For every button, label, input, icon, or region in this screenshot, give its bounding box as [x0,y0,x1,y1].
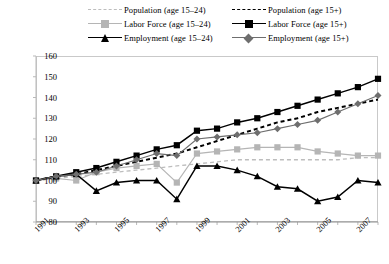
legend-label-1: Population (age 15+) [268,5,342,15]
marker-diamond [354,100,361,107]
legend-item-1: Population (age 15+) [232,3,342,16]
marker-diamond [294,121,301,128]
marker-square [194,150,200,156]
marker-square [234,119,240,125]
marker-diamond [274,125,281,132]
marker-diamond [214,133,221,140]
marker-square [274,144,280,150]
marker-square [234,146,240,152]
marker-square [315,96,321,102]
chart-svg [0,46,389,264]
legend-marker-5 [244,33,254,43]
legend-marker-2 [101,20,109,28]
legend-label-4: Employment (age 15–24) [124,33,213,43]
legend-item-0: Population (age 15–24) [88,3,206,16]
y-tick-label: 160 [31,52,57,61]
legend-item-2: Labor Force (age 15–24) [88,17,211,30]
legend-label-2: Labor Force (age 15–24) [124,19,211,29]
y-tick-label: 140 [31,94,57,103]
series-line-1 [36,100,378,181]
marker-square [294,144,300,150]
marker-square [375,76,381,82]
legend-marker-3 [245,20,253,28]
y-tick-label: 150 [31,73,57,82]
marker-square [174,179,180,185]
marker-square [194,128,200,134]
chart-legend: Population (age 15–24)Population (age 15… [0,0,389,46]
series-line-2 [36,147,378,182]
marker-square [375,153,381,159]
plot-area: 8090100110120130140150160 19911993199519… [0,46,389,264]
y-tick-label: 120 [31,135,57,144]
marker-square [174,142,180,148]
marker-square [133,163,139,169]
y-tick-label: 110 [31,156,57,165]
marker-square [214,126,220,132]
marker-square [254,144,260,150]
legend-item-5: Employment (age 15+) [232,31,349,44]
y-tick-label: 90 [31,197,57,206]
marker-square [154,161,160,167]
series-line-0 [36,158,378,181]
legend-swatch-1 [232,4,266,15]
legend-swatch-3 [232,18,266,29]
legend-swatch-0 [88,4,122,15]
marker-square [335,150,341,156]
y-tick-label: 100 [31,177,57,186]
y-tick-label: 130 [31,114,57,123]
marker-square [214,148,220,154]
marker-diamond [234,131,241,138]
marker-square [274,109,280,115]
marker-diamond [334,109,341,116]
legend-item-4: Employment (age 15–24) [88,31,213,44]
legend-label-5: Employment (age 15+) [268,33,349,43]
marker-square [335,90,341,96]
legend-swatch-5 [232,32,266,43]
legend-label-0: Population (age 15–24) [124,5,206,15]
marker-square [315,148,321,154]
marker-square [294,103,300,109]
marker-square [355,84,361,90]
legend-swatch-4 [88,32,122,43]
chart-root: Population (age 15–24)Population (age 15… [0,0,389,264]
marker-square [73,177,79,183]
marker-diamond [375,92,382,99]
marker-diamond [314,117,321,124]
legend-item-3: Labor Force (age 15+) [232,17,347,30]
series-line-5 [36,95,378,180]
legend-marker-4 [101,34,109,42]
legend-swatch-2 [88,18,122,29]
legend-label-3: Labor Force (age 15+) [268,19,347,29]
marker-square [355,153,361,159]
marker-square [254,115,260,121]
